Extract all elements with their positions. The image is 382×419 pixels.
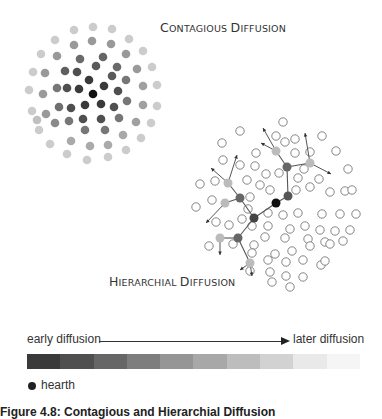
open-location-circle: [212, 218, 220, 226]
open-location-circle: [246, 267, 254, 275]
diffusion-dot: [113, 63, 122, 72]
hearth-label: hearth: [41, 378, 75, 392]
diffusion-dot: [125, 35, 134, 44]
diffusion-dot: [76, 55, 85, 64]
diffusion-dot: [137, 134, 146, 143]
open-location-circle: [315, 175, 323, 183]
open-location-circle: [332, 147, 340, 155]
diffusion-dot: [70, 26, 79, 35]
gradient-segment: [327, 354, 360, 369]
open-location-circle: [271, 250, 279, 258]
open-location-circle: [192, 203, 200, 211]
hearth-dot-icon: [28, 382, 36, 390]
open-location-circle: [264, 222, 272, 230]
open-location-circle: [299, 273, 307, 281]
open-location-circle: [225, 221, 233, 229]
diffused-node: [224, 179, 233, 188]
gradient-segment: [94, 354, 127, 369]
open-location-circle: [331, 227, 339, 235]
open-location-circle: [306, 148, 314, 156]
diffusion-dot: [153, 81, 162, 90]
diffusion-dot: [88, 37, 97, 46]
open-location-circle: [268, 278, 276, 286]
title-initial: H: [109, 274, 119, 289]
diffusion-dot: [51, 119, 60, 128]
diffusion-dot: [55, 103, 64, 112]
open-location-circle: [348, 186, 356, 194]
diffusion-dot: [75, 85, 84, 94]
gradient-segment: [60, 354, 93, 369]
open-location-circle: [236, 127, 244, 135]
diffusion-dot: [53, 52, 62, 61]
diffusion-dot: [148, 63, 157, 72]
diffused-node: [221, 199, 230, 208]
gradient-segment: [27, 354, 60, 369]
diffusion-dot: [153, 102, 162, 111]
title-initial: C: [160, 20, 169, 35]
open-location-circle: [261, 233, 269, 241]
open-location-circle: [281, 234, 289, 242]
diffusion-dot: [101, 126, 110, 135]
open-location-circle: [282, 258, 290, 266]
diffusion-dot: [132, 118, 141, 127]
open-location-circle: [326, 188, 334, 196]
open-location-circle: [344, 165, 352, 173]
diffusion-dot: [104, 153, 113, 162]
diffusion-dot: [73, 68, 82, 77]
open-location-circle: [281, 138, 289, 146]
diffusion-dot: [53, 84, 62, 93]
diffusion-dot: [122, 50, 131, 59]
open-location-circle: [352, 210, 360, 218]
diffusion-dot: [67, 137, 76, 146]
open-location-circle: [248, 249, 256, 257]
open-location-circle: [336, 210, 344, 218]
diffusion-dot: [108, 25, 117, 34]
open-location-circle: [299, 256, 307, 264]
open-location-circle: [286, 225, 294, 233]
title-initial: D: [180, 274, 190, 289]
open-location-circle: [246, 193, 254, 201]
diffusion-dot: [63, 150, 72, 159]
open-location-circle: [301, 222, 309, 230]
diffusion-dot: [115, 114, 124, 123]
title-rest: IERARCHIAL: [119, 277, 180, 288]
gradient-segment: [260, 354, 293, 369]
diffusion-dot: [65, 117, 74, 126]
diffusion-dot: [46, 140, 55, 149]
hearth-node: [272, 199, 281, 208]
open-location-circle: [266, 186, 274, 194]
open-location-circle: [288, 247, 296, 255]
open-location-circle: [306, 183, 314, 191]
diffused-node: [246, 259, 255, 268]
diffusion-dot: [28, 107, 37, 116]
diffusion-dot: [51, 36, 60, 45]
open-location-circle: [196, 180, 204, 188]
diffusion-dot: [119, 131, 128, 140]
gradient-segment: [127, 354, 160, 369]
diffusion-dot: [35, 126, 44, 135]
diffused-node: [250, 214, 259, 223]
gradient-segment: [227, 354, 260, 369]
diffusion-dot: [100, 82, 109, 91]
open-location-circle: [252, 149, 260, 157]
diffusion-dot: [25, 86, 34, 95]
diffusion-dot: [147, 119, 156, 128]
diffusion-dot: [63, 84, 72, 93]
diffusion-dot: [122, 76, 131, 85]
contagious-diffusion-title: CONTAGIOUS DIFFUSION: [160, 17, 286, 36]
open-location-circle: [318, 132, 326, 140]
diffusion-dot: [92, 62, 101, 71]
open-location-circle: [264, 256, 272, 264]
diffusion-dot: [133, 65, 142, 74]
diffusion-dot: [139, 82, 148, 91]
title-rest: IFFUSION: [190, 277, 236, 288]
diffusion-dot: [70, 41, 79, 50]
open-location-circle: [219, 156, 227, 164]
diffusion-dot: [110, 103, 119, 112]
open-location-circle: [256, 181, 264, 189]
open-location-circle: [346, 226, 354, 234]
title-rest: ONTAGIOUS: [169, 23, 231, 34]
open-location-circle: [262, 170, 270, 178]
diffusion-dot: [33, 116, 42, 125]
